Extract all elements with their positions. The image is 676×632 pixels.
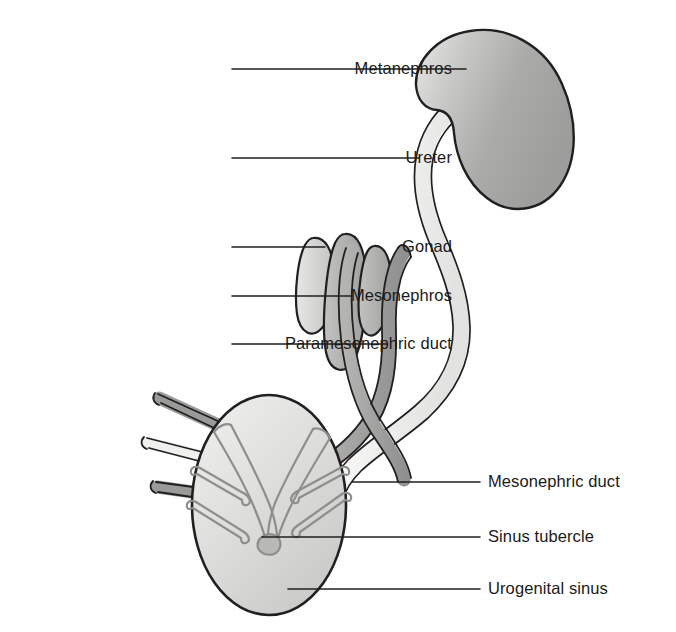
label-ureter: Ureter [406, 149, 452, 166]
label-sinus-tubercle: Sinus tubercle [488, 528, 594, 545]
label-mesonephric-duct: Mesonephric duct [488, 473, 620, 490]
label-gonad: Gonad [402, 238, 452, 255]
label-paramesonephric-duct: Paramesonephric duct [285, 335, 452, 352]
label-mesonephros: Mesonephros [351, 287, 452, 304]
label-urogenital-sinus: Urogenital sinus [488, 580, 608, 597]
urogenital-diagram-figure: Metanephros Ureter Gonad Mesonephros Par… [0, 0, 676, 632]
label-metanephros: Metanephros [355, 60, 452, 77]
